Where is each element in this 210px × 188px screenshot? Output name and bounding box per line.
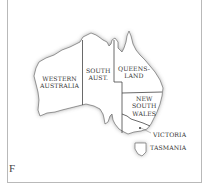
- panel-letter: F: [9, 162, 15, 174]
- label-south-australia: SOUTH AUST.: [86, 67, 111, 82]
- label-new-south-wales: NEW SOUTH WALES: [132, 95, 157, 117]
- australia-map: [0, 0, 210, 188]
- label-tasmania: TASMANIA: [150, 144, 186, 151]
- city-dot-icon: [139, 127, 141, 129]
- label-victoria: VICTORIA: [153, 131, 186, 138]
- label-western-australia: WESTERN AUSTRALIA: [40, 75, 79, 90]
- tasmania-outline: [135, 143, 146, 156]
- label-queensland: QUEENS- LAND: [118, 65, 150, 80]
